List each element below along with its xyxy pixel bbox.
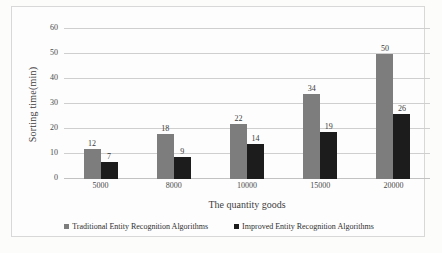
bar-item[interactable]: 14 <box>247 144 264 179</box>
bar-item[interactable]: 7 <box>101 162 118 180</box>
legend-label: Traditional Entity Recognition Algorithm… <box>72 222 208 231</box>
bar[interactable]: 14 <box>247 144 264 179</box>
bar-item[interactable]: 34 <box>303 94 320 179</box>
y-axis-tick-label: 30 <box>50 99 58 107</box>
bar-value-label: 26 <box>398 105 406 113</box>
bar[interactable]: 18 <box>157 134 174 179</box>
legend-item[interactable]: Improved Entity Recognition Algorithms <box>234 222 374 231</box>
bar-value-label: 34 <box>308 85 316 93</box>
bar[interactable]: 22 <box>230 124 247 179</box>
bar-group: 127 <box>64 29 137 179</box>
bar[interactable]: 12 <box>84 149 101 179</box>
legend-swatch-icon <box>64 224 69 229</box>
y-axis-tick-label: 60 <box>50 24 58 32</box>
x-axis-tick-label: 10000 <box>210 182 283 190</box>
bar-group: 5026 <box>357 29 430 179</box>
bar-item[interactable]: 12 <box>84 149 101 179</box>
y-axis-tick-label: 0 <box>54 174 58 182</box>
x-axis-tick-label: 8000 <box>137 182 210 190</box>
y-axis-title-text: Sorting time(min) <box>28 66 39 141</box>
bar-item[interactable]: 18 <box>157 134 174 179</box>
bar-group: 189 <box>137 29 210 179</box>
x-axis-tick-label: 15000 <box>284 182 357 190</box>
bar[interactable]: 34 <box>303 94 320 179</box>
bar-item[interactable]: 22 <box>230 124 247 179</box>
bar-value-label: 50 <box>381 45 389 53</box>
x-axis-tick-labels: 50008000100001500020000 <box>64 182 430 190</box>
chart-legend: Traditional Entity Recognition Algorithm… <box>12 222 426 231</box>
bar-item[interactable]: 26 <box>393 114 410 179</box>
bar[interactable]: 7 <box>101 162 118 180</box>
legend-label: Improved Entity Recognition Algorithms <box>242 222 374 231</box>
bar-value-label: 22 <box>235 115 243 123</box>
bar-group: 3419 <box>284 29 357 179</box>
y-axis-tick-label: 40 <box>50 74 58 82</box>
bar-item[interactable]: 9 <box>174 157 191 180</box>
bar[interactable]: 9 <box>174 157 191 180</box>
bar-item[interactable]: 19 <box>320 132 337 180</box>
bar[interactable]: 26 <box>393 114 410 179</box>
chart-container: Sorting time(min) 0102030405060 12718922… <box>11 6 425 237</box>
bar-value-label: 9 <box>180 148 184 156</box>
bar-value-label: 7 <box>107 153 111 161</box>
legend-item[interactable]: Traditional Entity Recognition Algorithm… <box>64 222 208 231</box>
bar-value-label: 19 <box>325 123 333 131</box>
bar-value-label: 18 <box>161 125 169 133</box>
y-axis-tick-label: 20 <box>50 124 58 132</box>
bar-value-label: 14 <box>252 135 260 143</box>
x-axis-tick-label: 20000 <box>357 182 430 190</box>
bar-group: 2214 <box>210 29 283 179</box>
page-background: Sorting time(min) 0102030405060 12718922… <box>0 0 442 253</box>
y-axis-tick-label: 10 <box>50 149 58 157</box>
bar[interactable]: 50 <box>376 54 393 179</box>
x-axis-tick-label: 5000 <box>64 182 137 190</box>
legend-swatch-icon <box>234 224 239 229</box>
x-axis-title: The quantity goods <box>64 199 430 210</box>
y-axis-tick-label: 50 <box>50 49 58 57</box>
bar[interactable]: 19 <box>320 132 337 180</box>
bar-groups: 127189221434195026 <box>64 29 430 179</box>
bar-value-label: 12 <box>88 140 96 148</box>
y-axis-title: Sorting time(min) <box>26 29 40 179</box>
bar-item[interactable]: 50 <box>376 54 393 179</box>
